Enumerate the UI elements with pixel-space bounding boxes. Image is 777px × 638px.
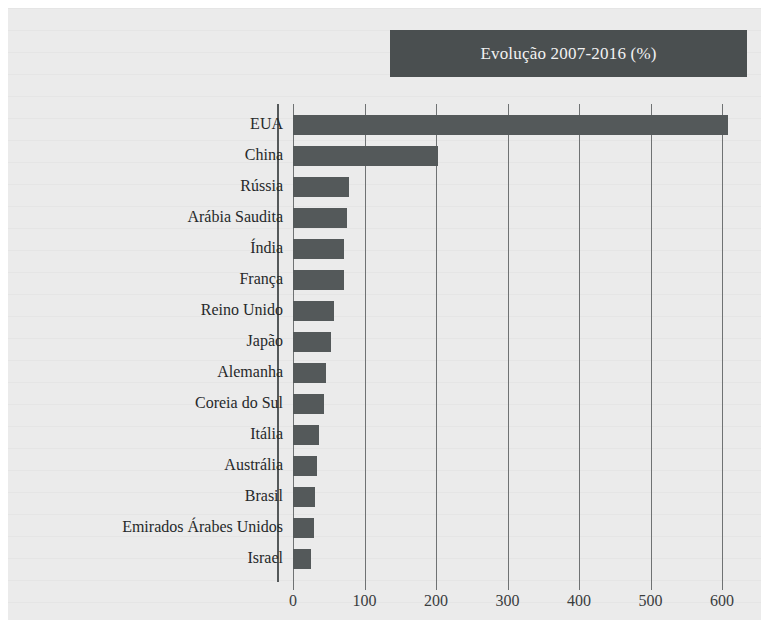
bar bbox=[293, 208, 347, 228]
x-tick-label: 400 bbox=[567, 592, 591, 610]
bar-row: China bbox=[293, 141, 723, 172]
x-tick-600 bbox=[722, 582, 723, 590]
bar bbox=[293, 363, 326, 383]
bar bbox=[293, 177, 349, 197]
category-label: Israel bbox=[25, 547, 283, 569]
category-label: Reino Unido bbox=[25, 299, 283, 321]
category-label: Arábia Saudita bbox=[25, 206, 283, 228]
bar bbox=[293, 270, 344, 290]
chart-title-banner: Evolução 2007-2016 (%) bbox=[390, 30, 747, 77]
bar bbox=[293, 518, 314, 538]
bar-row: Austrália bbox=[293, 451, 723, 482]
bar-row: Arábia Saudita bbox=[293, 203, 723, 234]
category-label: Índia bbox=[25, 237, 283, 259]
plot-area: 0100200300400500600 EUAChinaRússiaArábia… bbox=[293, 104, 723, 582]
bar bbox=[293, 487, 315, 507]
bar-row: Brasil bbox=[293, 482, 723, 513]
bar bbox=[293, 146, 438, 166]
x-tick-label: 0 bbox=[289, 592, 297, 610]
bar bbox=[293, 394, 324, 414]
bar-row: Japão bbox=[293, 327, 723, 358]
bar bbox=[293, 549, 311, 569]
category-label: China bbox=[25, 144, 283, 166]
bar bbox=[293, 301, 334, 321]
category-label: Itália bbox=[25, 423, 283, 445]
bar-row: Emirados Árabes Unidos bbox=[293, 513, 723, 544]
x-tick-300 bbox=[508, 582, 509, 590]
bar-row: Coreia do Sul bbox=[293, 389, 723, 420]
x-tick-label: 600 bbox=[710, 592, 734, 610]
x-tick-100 bbox=[365, 582, 366, 590]
category-label: Rússia bbox=[25, 175, 283, 197]
x-tick-400 bbox=[579, 582, 580, 590]
bar-row: Reino Unido bbox=[293, 296, 723, 327]
bar-row: Rússia bbox=[293, 172, 723, 203]
bar bbox=[293, 425, 319, 445]
x-tick-label: 300 bbox=[496, 592, 520, 610]
x-tick-0 bbox=[293, 582, 294, 590]
category-label: Japão bbox=[25, 330, 283, 352]
bar-row: Alemanha bbox=[293, 358, 723, 389]
category-label: Brasil bbox=[25, 485, 283, 507]
category-label: Alemanha bbox=[25, 361, 283, 383]
x-tick-label: 100 bbox=[353, 592, 377, 610]
category-label: França bbox=[25, 268, 283, 290]
x-tick-500 bbox=[651, 582, 652, 590]
bar bbox=[293, 239, 344, 259]
bar bbox=[293, 456, 317, 476]
chart-figure: Evolução 2007-2016 (%) 01002003004005006… bbox=[0, 0, 777, 638]
x-tick-label: 500 bbox=[639, 592, 663, 610]
x-tick-label: 200 bbox=[424, 592, 448, 610]
category-label: EUA bbox=[25, 113, 283, 135]
bar-row: EUA bbox=[293, 110, 723, 141]
category-label: Coreia do Sul bbox=[25, 392, 283, 414]
bar-row: Israel bbox=[293, 544, 723, 575]
bar-row: Índia bbox=[293, 234, 723, 265]
category-label: Austrália bbox=[25, 454, 283, 476]
category-label: Emirados Árabes Unidos bbox=[25, 516, 283, 538]
x-tick-200 bbox=[436, 582, 437, 590]
bar bbox=[293, 115, 728, 135]
bar-row: Itália bbox=[293, 420, 723, 451]
bar bbox=[293, 332, 331, 352]
bar-row: França bbox=[293, 265, 723, 296]
chart-title: Evolução 2007-2016 (%) bbox=[480, 44, 656, 64]
